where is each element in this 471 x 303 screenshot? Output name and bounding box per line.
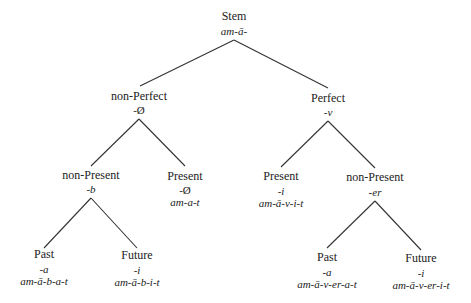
- edge-nonperfect-present: [139, 119, 185, 166]
- node-label: Future: [121, 249, 152, 261]
- node-suffix: -Ø: [179, 185, 191, 196]
- node-label: Present: [167, 170, 202, 182]
- node-label: Present: [263, 170, 298, 182]
- node-label: non-Present: [62, 169, 119, 181]
- node-form: am-ā-b-a-t: [20, 276, 68, 287]
- node-suffix: -er: [369, 187, 382, 198]
- node-suffix: -b: [86, 184, 95, 195]
- node-suffix: -v: [324, 107, 333, 118]
- node-suffix: -i: [278, 186, 285, 197]
- node-suffix: -i: [134, 265, 141, 276]
- edge-stem-perfect: [234, 40, 328, 88]
- edge-nonpresent-past-right: [327, 201, 375, 248]
- node-label: Past: [317, 251, 337, 263]
- node-label: Stem: [222, 10, 247, 22]
- node-form: am-ā-b-i-t: [114, 277, 159, 288]
- edge-perfect-nonpresent: [328, 121, 375, 168]
- edge-perfect-present: [281, 121, 328, 167]
- node-form: am-ā-v-er-i-t: [392, 280, 449, 291]
- edge-nonpresent-past-left: [44, 198, 91, 248]
- node-suffix: -a: [39, 264, 48, 275]
- node-form: am-ā-v-i-t: [259, 198, 304, 209]
- node-label: non-Perfect: [111, 90, 167, 102]
- node-label: Perfect: [311, 92, 345, 104]
- edge-nonpresent-future-right: [375, 201, 421, 250]
- node-label: Past: [34, 248, 54, 260]
- tree-edges: [0, 0, 471, 303]
- edge-nonperfect-nonpresent: [91, 119, 139, 166]
- node-label: non-Present: [346, 171, 403, 183]
- node-suffix: -i: [418, 268, 425, 279]
- edge-nonpresent-future-left: [91, 198, 137, 248]
- node-suffix: -a: [322, 267, 331, 278]
- node-form: am-a-t: [170, 197, 199, 208]
- node-label: Future: [405, 252, 436, 264]
- node-suffix: am-ā-: [221, 26, 247, 37]
- node-suffix: -Ø: [133, 105, 145, 116]
- node-form: am-ā-v-er-a-t: [297, 279, 357, 290]
- edge-stem-nonperfect: [140, 40, 234, 86]
